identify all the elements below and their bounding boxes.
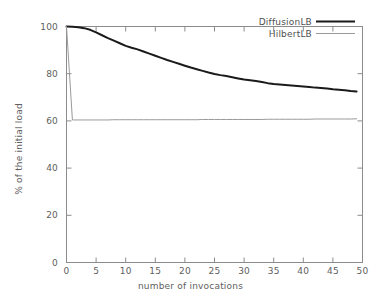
x-tick-label: 15	[149, 266, 161, 276]
legend-item-hilbertlb: HilbertLB	[269, 29, 312, 39]
y-axis-title: % of the initial load	[14, 89, 24, 209]
y-tick-label: 60	[14, 116, 58, 126]
x-axis-title: number of invocations	[0, 281, 381, 291]
series-line-0	[67, 27, 357, 92]
x-tick-label: 25	[209, 266, 221, 276]
x-tick-label: 45	[327, 266, 339, 276]
x-tick-label: 35	[268, 266, 280, 276]
x-tick-label: 40	[297, 266, 309, 276]
plot-frame	[67, 27, 363, 263]
y-tick-label: 100	[14, 22, 58, 32]
y-tick-label: 40	[14, 163, 58, 173]
x-tick-label: 30	[238, 266, 250, 276]
y-tick-label: 20	[14, 210, 58, 220]
y-tick-label: 80	[14, 69, 58, 79]
chart-figure: % of the initial load number of invocati…	[0, 0, 381, 303]
x-tick-label: 50	[357, 266, 369, 276]
x-tick-label: 10	[120, 266, 132, 276]
x-tick-label: 0	[64, 266, 70, 276]
x-tick-label: 20	[179, 266, 191, 276]
x-tick-label: 5	[93, 266, 99, 276]
y-tick-label: 0	[14, 258, 58, 268]
legend-item-diffusionlb: DiffusionLB	[259, 17, 312, 27]
